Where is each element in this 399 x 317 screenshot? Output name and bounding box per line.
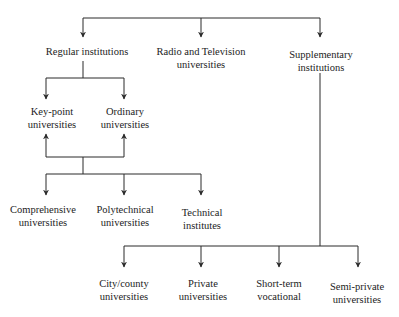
node-label-line1: Semi-private — [330, 281, 384, 294]
node-label-line2: universities — [179, 291, 227, 304]
node-label-line2: vocational — [256, 291, 302, 304]
node-private-universities: Private universities — [179, 278, 227, 303]
node-label-line2: universities — [96, 217, 153, 230]
node-label-line1: Technical — [182, 207, 223, 220]
node-label-line1: Private — [179, 278, 227, 291]
node-label: Regular institutions — [46, 46, 129, 59]
node-label-line2: universities — [10, 217, 76, 230]
node-semi-private-universities: Semi-private universities — [330, 281, 384, 306]
node-label-line2: institutes — [182, 220, 223, 233]
node-label-line2: universities — [101, 119, 149, 132]
higher-education-structure-diagram: Regular institutions Radio and Televisio… — [0, 0, 399, 317]
node-label-line1: Comprehensive — [10, 204, 76, 217]
node-label-line2: universities — [99, 291, 149, 304]
node-city-county-universities: City/county universities — [99, 278, 149, 303]
node-label-line1: Key-point — [28, 106, 76, 119]
node-radio-tv-universities: Radio and Television universities — [157, 46, 246, 71]
node-label-line1: Short-term — [256, 278, 302, 291]
node-ordinary-universities: Ordinary universities — [101, 106, 149, 131]
node-short-term-vocational: Short-term vocational — [256, 278, 302, 303]
node-regular-institutions: Regular institutions — [46, 46, 129, 59]
node-label-line1: Polytechnical — [96, 204, 153, 217]
node-label-line2: universities — [28, 119, 76, 132]
node-key-point-universities: Key-point universities — [28, 106, 76, 131]
node-label-line2: universities — [330, 294, 384, 307]
node-label-line1: Radio and Television — [157, 46, 246, 59]
node-label-line1: City/county — [99, 278, 149, 291]
node-supplementary-institutions: Supplementary institutions — [289, 49, 353, 74]
node-label-line1: Supplementary — [289, 49, 353, 62]
node-label-line2: institutions — [289, 62, 353, 75]
node-label-line1: Ordinary — [101, 106, 149, 119]
node-polytechnical-universities: Polytechnical universities — [96, 204, 153, 229]
node-label-line2: universities — [157, 59, 246, 72]
node-comprehensive-universities: Comprehensive universities — [10, 204, 76, 229]
node-technical-institutes: Technical institutes — [182, 207, 223, 232]
